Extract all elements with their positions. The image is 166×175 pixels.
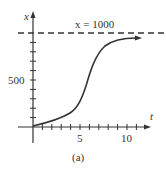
- y-axis-arrow-icon: [31, 11, 36, 18]
- y-tick-label-500: 500: [8, 74, 25, 86]
- y-axis-label: x: [23, 10, 29, 22]
- logistic-curve: [33, 38, 136, 126]
- x-tick-label-10: 10: [121, 132, 133, 144]
- chart-caption: (a): [72, 151, 85, 164]
- x-axis-label: t: [150, 110, 154, 122]
- x-tick-label-5: 5: [77, 132, 83, 144]
- x-axis-arrow-icon: [144, 125, 151, 130]
- logistic-chart: x t x = 1000 500 5 10 (a): [0, 0, 166, 175]
- curve-arrow-icon: [135, 36, 142, 41]
- asymptote-label: x = 1000: [75, 18, 115, 30]
